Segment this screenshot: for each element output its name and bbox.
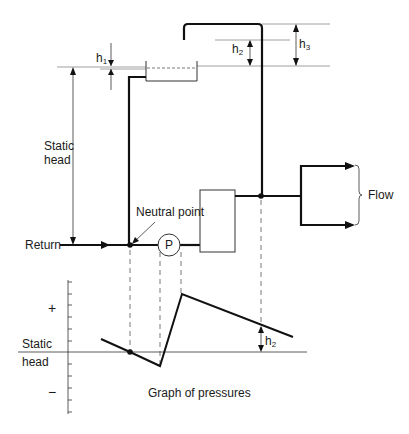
graph-h2-arrow-up-icon	[258, 326, 264, 333]
neutral-point-label: Neutral point	[136, 205, 205, 219]
flow-branches	[301, 166, 347, 225]
flow-arrow-top-icon	[345, 162, 355, 170]
static-head-label-1: Static	[44, 139, 74, 153]
flow-brace	[355, 165, 362, 225]
expansion-tank	[146, 61, 197, 81]
flow-arrow-bottom-icon	[345, 221, 355, 229]
pump-label: P	[165, 238, 173, 252]
boiler-box	[200, 190, 235, 252]
h2-arrow-up-icon	[247, 40, 253, 47]
graph-neutral-point-dot	[127, 349, 133, 355]
h1-label: h1	[96, 51, 108, 66]
h2-arrow-down-icon	[247, 59, 253, 66]
return-label: Return	[25, 238, 61, 252]
graph-title: Graph of pressures	[148, 386, 251, 400]
static-head-arrow-down-icon	[70, 237, 76, 245]
h3-arrow-down-icon	[293, 58, 299, 66]
graph-head-label: head	[22, 355, 49, 369]
graph-h2-label: h2	[265, 334, 277, 349]
h1-arrow-up-icon	[108, 69, 114, 75]
diagram-canvas: h1 h2 h3 Static head Neutral point Retur…	[0, 0, 409, 434]
static-head-label-2: head	[44, 153, 71, 167]
graph-minus-label: −	[48, 384, 56, 400]
vent-junction-dot	[258, 193, 264, 199]
graph-static-label: Static	[22, 337, 52, 351]
h3-label: h3	[299, 37, 311, 52]
h1-arrow-down-icon	[108, 60, 114, 66]
graph-y-ticks	[68, 282, 72, 412]
graph-plus-label: +	[48, 300, 56, 316]
h3-arrow-up-icon	[293, 24, 299, 32]
flow-label: Flow	[368, 188, 394, 202]
h2-label: h2	[232, 42, 244, 57]
static-head-arrow-up-icon	[70, 67, 76, 75]
neutral-point-dot	[127, 242, 133, 248]
neutral-point-leader	[134, 222, 155, 242]
graph-h2-arrow-down-icon	[258, 345, 264, 352]
return-arrow-icon	[101, 241, 110, 249]
cold-feed-pipe	[129, 77, 146, 245]
